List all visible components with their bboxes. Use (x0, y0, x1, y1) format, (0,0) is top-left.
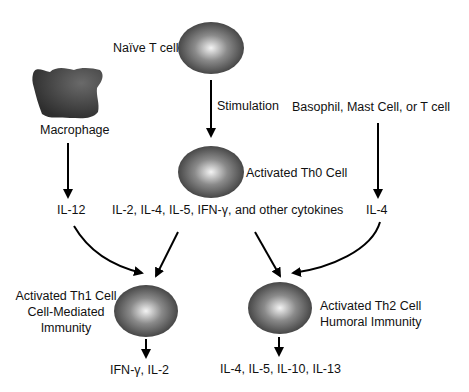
th2-cell-shape (248, 282, 312, 334)
arrow-cytokines-to-th2 (255, 232, 280, 276)
th0-cytokines-label: IL-2, IL-4, IL-5, IFN-γ, and other cytok… (112, 203, 343, 218)
stimulation-label: Stimulation (217, 99, 279, 114)
basophil-label: Basophil, Mast Cell, or T cell (292, 100, 450, 115)
il12-label: IL-12 (57, 203, 86, 218)
th2-title-label: Activated Th2 Cell (320, 299, 421, 314)
il4-label: IL-4 (366, 203, 388, 218)
th2-output-label: IL-4, IL-5, IL-10, IL-13 (220, 362, 341, 377)
macrophage-shape (32, 68, 102, 118)
naive-t-cell-label: Naïve T cell (113, 41, 179, 56)
macrophage-label: Macrophage (40, 123, 110, 138)
th1-line3-label: Immunity (14, 321, 118, 336)
th1-title-label: Activated Th1 Cell (14, 289, 118, 304)
th1-line2-label: Cell-Mediated (14, 305, 118, 320)
th1-cell-shape (114, 285, 178, 337)
arrow-il4-to-th2 (293, 222, 380, 273)
th1-output-label: IFN-γ, IL-2 (110, 363, 169, 378)
th2-line2-label: Humoral Immunity (320, 315, 421, 330)
th0-cell-shape (178, 146, 244, 198)
naive-t-cell-shape (178, 22, 244, 74)
arrow-il12-to-th1 (74, 226, 142, 273)
th0-label: Activated Th0 Cell (246, 166, 347, 181)
arrow-cytokines-to-th1 (156, 232, 178, 276)
